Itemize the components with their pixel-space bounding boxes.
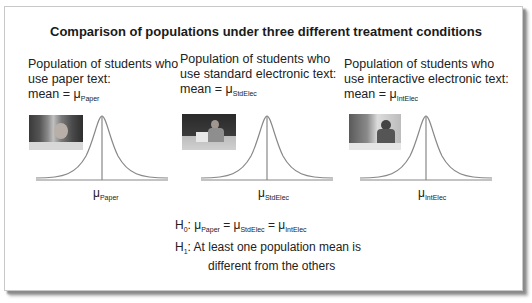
population-mean: mean = μPaper bbox=[28, 87, 178, 106]
population-desc-line2: use interactive electronic text: bbox=[344, 72, 509, 86]
axis-mean-label-paper: μPaper bbox=[93, 186, 119, 201]
population-desc-line1: Population of students who bbox=[344, 57, 494, 71]
normal-curve-paper bbox=[34, 112, 170, 184]
population-stdelec-label: Population of students who use standard … bbox=[180, 52, 336, 101]
population-mean: mean = μIntElec bbox=[344, 87, 509, 106]
population-desc-line1: Population of students who bbox=[28, 57, 178, 71]
alternative-hypothesis: H1: At least one population mean isdiffe… bbox=[175, 240, 395, 274]
axis-mean-label-intelec: μIntElec bbox=[418, 186, 446, 201]
population-desc-line2: use standard electronic text: bbox=[180, 67, 336, 81]
null-hypothesis: H0: μPaper = μStdElec = μIntElec bbox=[175, 218, 307, 233]
population-mean: mean = μStdElec bbox=[180, 82, 336, 101]
population-desc-line1: Population of students who bbox=[180, 52, 330, 66]
normal-curve-intelec bbox=[358, 112, 494, 184]
axis-mean-label-stdelec: μStdElec bbox=[258, 186, 289, 201]
normal-curve-stdelec bbox=[199, 112, 335, 184]
population-paper-label: Population of students who use paper tex… bbox=[28, 57, 178, 106]
population-intelec-label: Population of students who use interacti… bbox=[344, 57, 509, 106]
population-desc-line2: use paper text: bbox=[28, 72, 111, 86]
diagram-title: Comparison of populations under three di… bbox=[0, 24, 532, 39]
